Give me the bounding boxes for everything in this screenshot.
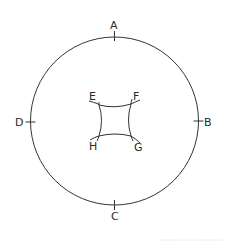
label-g: G: [134, 141, 143, 154]
circle-diagram: A B C D E F H G: [0, 0, 226, 241]
edge-bottom: [90, 134, 140, 143]
edge-right: [129, 99, 134, 141]
label-d: D: [15, 116, 23, 129]
outer-circle: [31, 37, 199, 205]
label-a: A: [110, 19, 118, 32]
center-dot: [114, 119, 115, 120]
label-h: H: [89, 140, 97, 153]
label-c: C: [111, 210, 119, 223]
label-f: F: [133, 90, 139, 103]
label-b: B: [204, 116, 212, 129]
inner-quadrilateral: [89, 99, 140, 143]
label-e: E: [89, 90, 96, 103]
